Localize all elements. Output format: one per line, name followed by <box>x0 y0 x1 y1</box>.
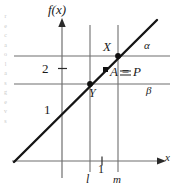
function-line <box>14 20 157 162</box>
line-label-beta: β <box>146 85 151 96</box>
y-axis-label: f(x) <box>48 3 66 16</box>
line-label-alpha: α <box>144 40 150 51</box>
line-label-m: m <box>113 174 121 185</box>
point-label-A-equals-P: A = P <box>110 65 141 78</box>
gutter-bleed-text: recaolasgevs <box>1 12 10 138</box>
y-axis-arrow-icon <box>58 18 65 27</box>
math-figure: f(x) x 1 2 1 α β l m X Y A = P recaolasg… <box>0 0 177 192</box>
line-label-l: l <box>86 173 89 185</box>
x-axis-label: x <box>165 152 170 163</box>
point-A-marker <box>103 67 108 72</box>
point-X-marker <box>115 53 121 59</box>
point-label-Y: Y <box>89 87 96 99</box>
x-tick-label-1: 1 <box>98 163 104 175</box>
y-tick-label-1: 1 <box>44 103 51 116</box>
point-label-X: X <box>103 40 111 53</box>
y-tick-label-2: 2 <box>42 62 49 75</box>
